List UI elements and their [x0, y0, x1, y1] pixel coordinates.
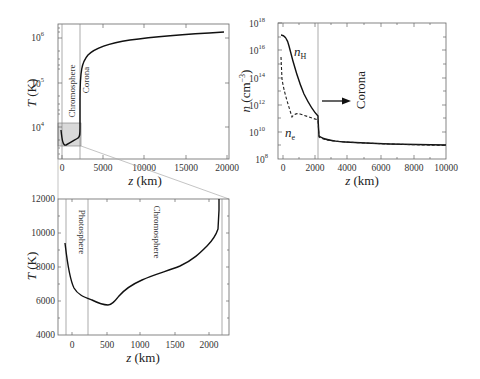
- svg-text:6000: 6000: [36, 296, 55, 306]
- svg-text:0: 0: [60, 163, 65, 173]
- x-axis-label: z (km): [125, 350, 160, 365]
- svg-text:5000: 5000: [94, 163, 113, 173]
- photosphere-label: Photosphere: [77, 210, 87, 255]
- svg-text:2000: 2000: [200, 340, 219, 350]
- plot-temperature-zoom: 12000 10000 8000 6000 4000 0 500 1000 15…: [24, 194, 229, 365]
- corona-label: Corona: [353, 71, 368, 110]
- svg-text:1016: 1016: [249, 43, 266, 56]
- svg-text:1010: 1010: [249, 125, 265, 138]
- svg-text:1000: 1000: [131, 340, 150, 350]
- svg-text:12000: 12000: [31, 194, 55, 204]
- x-ticks: [72, 199, 209, 335]
- svg-text:20000: 20000: [215, 163, 239, 173]
- svg-text:10000: 10000: [31, 228, 55, 238]
- x-tick-labels: 0 2000 4000 6000 8000 10000: [281, 163, 459, 173]
- svg-text:4000: 4000: [338, 163, 357, 173]
- arrow-head-icon: [342, 98, 351, 105]
- y-axis-label: T (K): [24, 252, 39, 281]
- nH-label: nH: [294, 44, 307, 61]
- svg-text:0: 0: [281, 163, 286, 173]
- svg-text:104: 104: [31, 120, 45, 133]
- plot-density: 1018 1016 1014 1012 1010 108 0 2000 4000…: [238, 16, 458, 188]
- svg-text:15000: 15000: [174, 163, 198, 173]
- plot-temperature-full: 106 105 104 0 5000 10000 15000 20000 z (…: [24, 24, 239, 188]
- chromosphere-label: Chromosphere: [152, 206, 162, 259]
- svg-text:0: 0: [70, 340, 75, 350]
- svg-text:2000: 2000: [306, 163, 325, 173]
- corona-label: Corona: [81, 67, 91, 94]
- x-tick-labels: 0 5000 10000 15000 20000: [60, 163, 240, 173]
- svg-text:500: 500: [100, 340, 115, 350]
- x-tick-labels: 0 500 1000 1500 2000: [70, 340, 219, 350]
- svg-text:106: 106: [31, 30, 45, 43]
- x-axis-label: z (km): [344, 173, 379, 188]
- svg-text:10000: 10000: [434, 163, 458, 173]
- svg-text:4000: 4000: [36, 330, 55, 340]
- svg-text:1018: 1018: [249, 16, 265, 29]
- chromosphere-label: Chromosphere: [67, 65, 77, 118]
- x-axis-label: z (km): [127, 173, 162, 188]
- y-axis-label: T (K): [24, 79, 39, 108]
- svg-text:8000: 8000: [405, 163, 424, 173]
- svg-text:6000: 6000: [372, 163, 391, 173]
- ne-label: ne: [285, 125, 296, 142]
- svg-text:108: 108: [255, 152, 268, 165]
- svg-text:1500: 1500: [166, 340, 185, 350]
- figure-canvas: 106 105 104 0 5000 10000 15000 20000 z (…: [0, 0, 480, 379]
